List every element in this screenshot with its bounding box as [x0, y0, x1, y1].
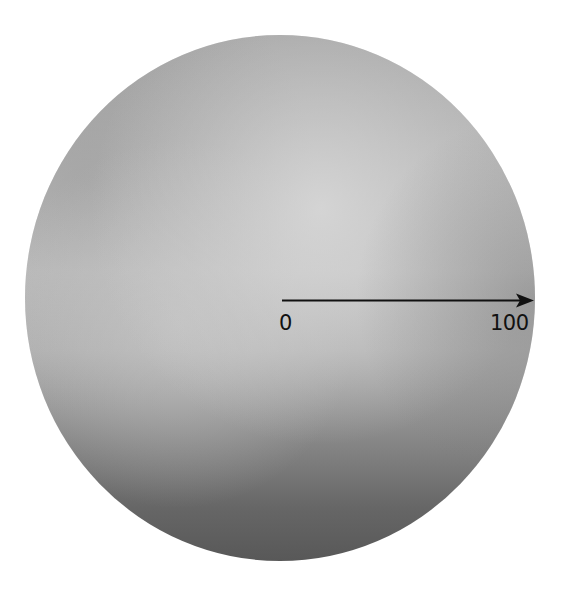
scale-start-label: 0	[279, 313, 292, 334]
disc-diagram	[0, 0, 568, 592]
scale-end-label: 100	[490, 313, 529, 334]
shaded-disc	[25, 35, 535, 561]
diagram-canvas	[0, 0, 568, 592]
